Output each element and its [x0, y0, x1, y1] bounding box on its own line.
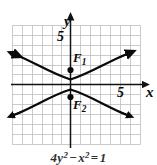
focus-upper-label: F1	[73, 51, 86, 67]
focus-lower-letter: F	[73, 97, 82, 112]
caption-equals-operator: =	[90, 150, 100, 165]
focus-upper-subscript: 1	[82, 57, 87, 67]
caption-minus-operator: −	[68, 150, 78, 165]
y-axis-label: y	[64, 14, 71, 29]
y-axis-tick-5: 5	[57, 30, 64, 44]
focus-upper-point	[67, 67, 73, 73]
caption-right-hand-side: 1	[100, 150, 107, 165]
hyperbola-figure: y x 5 5 F1 F2 4y2−x2=1	[0, 0, 157, 165]
plot-canvas	[0, 0, 157, 165]
figure-caption-equation: 4y2−x2=1	[0, 150, 157, 165]
x-axis-label: x	[146, 85, 154, 100]
focus-upper-letter: F	[73, 50, 82, 65]
focus-lower-label: F2	[73, 98, 86, 114]
caption-x-var: x	[78, 150, 85, 165]
x-axis-tick-5: 5	[117, 86, 124, 100]
focus-lower-subscript: 2	[82, 104, 87, 114]
